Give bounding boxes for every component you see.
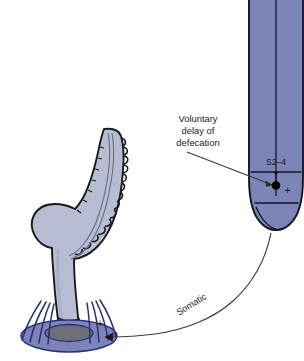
anatomy-figure: S2–4 + Voluntary delay of defecation: [0, 0, 304, 361]
callout-line-2: delay of: [182, 125, 215, 136]
spinal-segment-label: S2–4: [266, 157, 286, 167]
synapse-node: [272, 181, 281, 190]
spinal-cord-group: [249, 0, 303, 230]
levator-hiatus: [45, 325, 93, 342]
haustrum: [124, 156, 128, 164]
figure-canvas: S2–4 + Voluntary delay of defecation: [0, 0, 304, 361]
callout-line-3: defecation: [176, 137, 219, 148]
callout-voluntary-delay: Voluntary delay of defecation: [176, 113, 219, 148]
somatic-nerve-pathway: [112, 233, 271, 337]
plus-sign-cord: +: [284, 184, 290, 196]
colon-rectum-group: [32, 129, 128, 337]
callout-line-1: Voluntary: [178, 113, 217, 124]
somatic-pathway-label: Somatic: [175, 291, 209, 317]
plus-sign-sphincter: +: [97, 317, 103, 329]
